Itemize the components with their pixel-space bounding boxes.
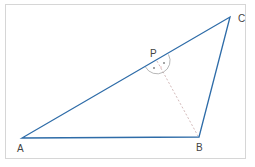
angle-dot-bpc xyxy=(163,62,165,64)
angle-dot-minor xyxy=(160,66,161,67)
point-label-p: P xyxy=(150,48,157,59)
vertex-label-a: A xyxy=(17,143,24,154)
vertex-label-b: B xyxy=(196,142,203,153)
triangle-abc xyxy=(22,17,230,138)
angle-dot-apb xyxy=(153,67,155,69)
triangle-diagram: A B C P xyxy=(0,0,255,167)
vertex-label-c: C xyxy=(238,13,245,24)
